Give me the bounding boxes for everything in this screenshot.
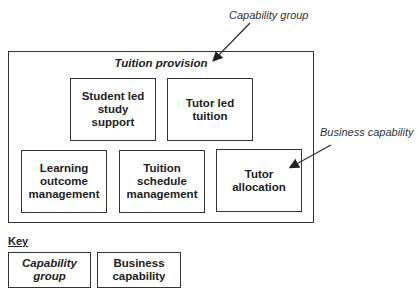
key-label: Business capability	[98, 257, 180, 283]
capability-student-led-study-support: Student led study support	[70, 78, 156, 141]
key-business-capability: Business capability	[97, 252, 181, 288]
capability-label: Tutor allocation	[217, 168, 301, 194]
capability-group-callout: Capability group	[229, 9, 309, 21]
capability-label: Learning outcome management	[22, 162, 106, 201]
capability-label: Tutor led tuition	[168, 97, 252, 123]
business-capability-callout: Business capability	[320, 126, 414, 138]
capability-learning-outcome-management: Learning outcome management	[21, 150, 107, 213]
capability-label: Student led study support	[71, 90, 155, 129]
capability-tutor-led-tuition: Tutor led tuition	[167, 78, 253, 141]
capability-tutor-allocation: Tutor allocation	[216, 149, 302, 212]
group-title: Tuition provision	[8, 57, 314, 69]
capability-tuition-schedule-management: Tuition schedule management	[119, 150, 205, 213]
capability-label: Tuition schedule management	[120, 162, 204, 201]
key-label: Capability group	[9, 257, 90, 283]
key-capability-group: Capability group	[8, 252, 91, 288]
key-title: Key	[8, 235, 28, 247]
